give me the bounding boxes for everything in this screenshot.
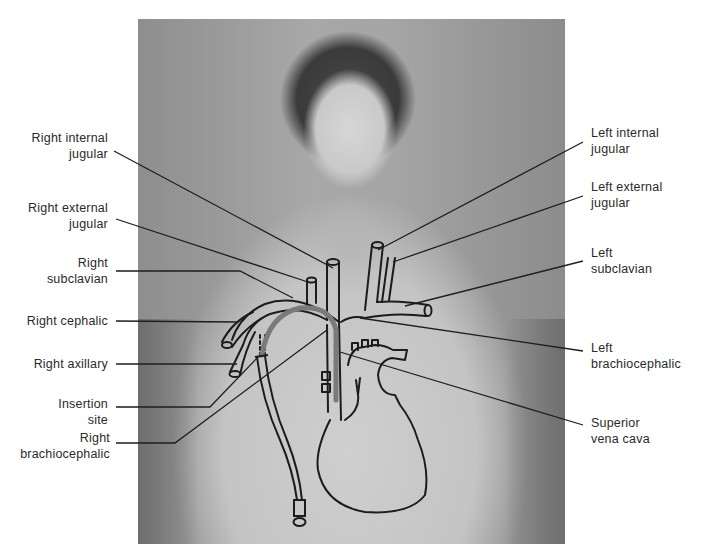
leader-right-internal-jugular: [114, 151, 333, 268]
leader-right-brachiocephalic: [116, 330, 327, 443]
left-internal-jugular-vessel: [365, 245, 383, 310]
label-left-internal-jugular: Left internal jugular: [591, 125, 659, 157]
right-subclavian-vessel: [232, 301, 339, 345]
right-external-jugular-vessel: [307, 280, 316, 305]
label-left-brachiocephalic: Left brachiocephalic: [591, 340, 681, 372]
right-internal-jugular-vessel: [327, 262, 339, 320]
leader-right-subclavian: [116, 271, 293, 298]
label-right-internal-jugular: Right internal jugular: [0, 130, 108, 162]
leader-left-brachiocephalic: [360, 318, 583, 351]
leader-left-internal-jugular: [378, 142, 583, 250]
leader-right-cephalic: [116, 321, 237, 322]
left-subclavian-vessel: [365, 301, 428, 318]
label-insertion-site: Insertion site: [0, 396, 108, 428]
catheter: [255, 308, 336, 526]
left-external-jugular-vessel: [382, 258, 395, 302]
label-right-cephalic: Right cephalic: [0, 313, 108, 329]
label-superior-vena-cava: Superior vena cava: [591, 415, 650, 447]
leader-right-external-jugular: [116, 219, 311, 283]
leader-left-external-jugular: [393, 196, 583, 262]
label-left-subclavian: Left subclavian: [591, 245, 652, 277]
label-right-brachiocephalic: Right brachiocephalic: [0, 430, 110, 462]
label-left-external-jugular: Left external jugular: [591, 179, 662, 211]
leader-left-subclavian: [405, 261, 583, 306]
right-axillary-vessel: [230, 332, 255, 375]
leader-superior-vena-cava: [340, 352, 583, 425]
label-right-axillary: Right axillary: [0, 356, 108, 372]
label-right-subclavian: Right subclavian: [0, 255, 108, 287]
label-right-external-jugular: Right external jugular: [0, 200, 108, 232]
